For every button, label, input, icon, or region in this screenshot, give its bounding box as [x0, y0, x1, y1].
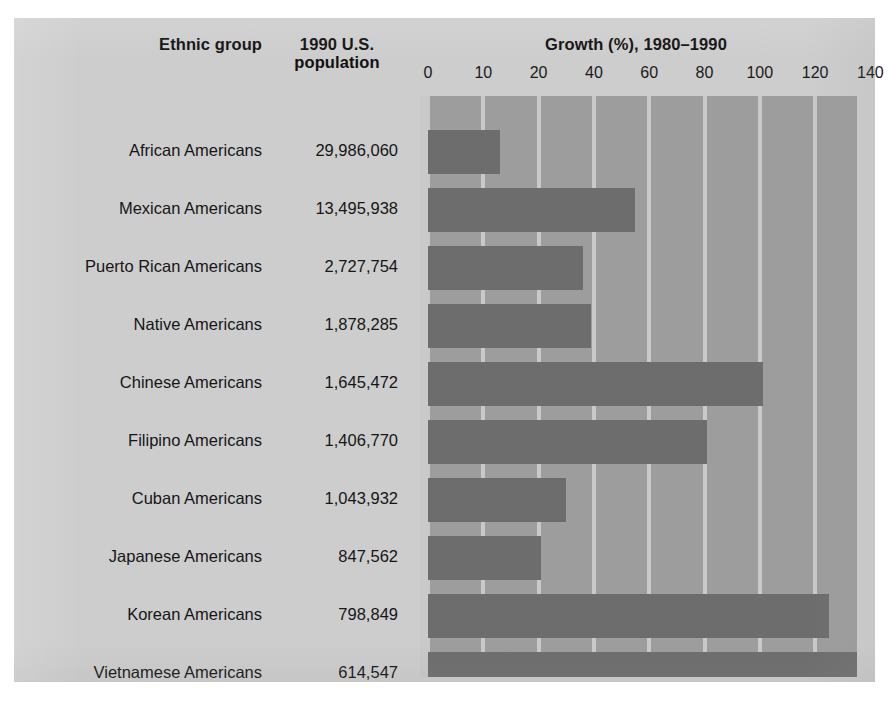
x-axis-tick-140: 140	[857, 64, 884, 82]
chart-title-growth: Growth (%), 1980–1990	[411, 35, 861, 54]
column-header-ethnic-group: Ethnic group	[104, 35, 262, 54]
x-axis-tick-labels: 01020406080100120140	[14, 64, 875, 86]
x-axis-tick-20: 20	[530, 64, 548, 82]
x-axis-tick-80: 80	[696, 64, 714, 82]
column-header-population-line1: 1990 U.S.	[276, 35, 398, 53]
table-row: Puerto Rican Americans2,727,754	[14, 212, 875, 270]
row-label-ethnic-group: Vietnamese Americans	[14, 663, 262, 682]
x-axis-tick-120: 120	[802, 64, 829, 82]
table-row: African Americans29,986,060	[14, 96, 875, 154]
table-row: Native Americans1,878,285	[14, 270, 875, 328]
x-axis-tick-40: 40	[585, 64, 603, 82]
table-row: Japanese Americans847,562	[14, 502, 875, 560]
x-axis-tick-0: 0	[424, 64, 433, 82]
table-row: Chinese Americans1,645,472	[14, 328, 875, 386]
chart-figure: Ethnic group 1990 U.S. population Growth…	[14, 18, 875, 682]
table-row: Mexican Americans13,495,938	[14, 154, 875, 212]
table-row: Korean Americans798,849	[14, 560, 875, 618]
table-row: Vietnamese Americans614,547	[14, 618, 875, 676]
table-row: Filipino Americans1,406,770	[14, 386, 875, 444]
x-axis-tick-100: 100	[746, 64, 773, 82]
table-row: Cuban Americans1,043,932	[14, 444, 875, 502]
x-axis-tick-10: 10	[474, 64, 492, 82]
x-axis-tick-60: 60	[640, 64, 658, 82]
row-value-population: 614,547	[272, 663, 398, 682]
